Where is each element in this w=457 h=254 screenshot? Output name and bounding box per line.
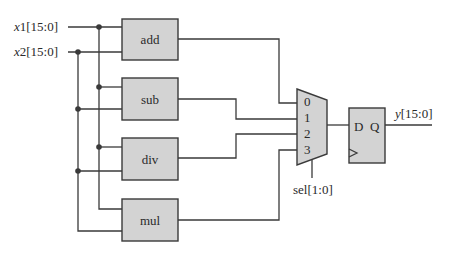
input-x2-label: x2[15:0] — [13, 44, 58, 59]
multiplexer: 0 1 2 3 — [297, 89, 327, 165]
mux-port-1: 1 — [304, 110, 311, 125]
d-flip-flop: D Q — [349, 108, 385, 163]
mux-port-0: 0 — [304, 94, 311, 109]
block-output-wires — [178, 39, 297, 220]
datapath-diagram: x1[15:0] x2[15:0] add sub div mul — [0, 0, 457, 254]
div-block: div — [122, 138, 178, 180]
junction-dot — [96, 24, 102, 30]
select-label: sel[1:0] — [293, 182, 333, 197]
svg-text:add: add — [141, 32, 160, 47]
mul-block: mul — [122, 199, 178, 241]
junction-dot — [96, 144, 102, 150]
output-y-label: y[15:0] — [393, 106, 433, 121]
junction-dot — [75, 49, 81, 55]
svg-text:mul: mul — [140, 213, 161, 228]
sub-block: sub — [122, 78, 178, 120]
reg-d-label: D — [354, 119, 363, 134]
junction-dot — [75, 106, 81, 112]
input-x1-label: x1[15:0] — [13, 19, 58, 34]
reg-q-label: Q — [370, 119, 380, 134]
junction-dot — [96, 84, 102, 90]
x2-bus — [68, 49, 122, 231]
mux-port-2: 2 — [304, 126, 311, 141]
svg-text:div: div — [142, 152, 159, 167]
add-block: add — [122, 19, 178, 60]
svg-text:sub: sub — [141, 92, 159, 107]
mux-port-3: 3 — [304, 142, 311, 157]
junction-dot — [75, 168, 81, 174]
